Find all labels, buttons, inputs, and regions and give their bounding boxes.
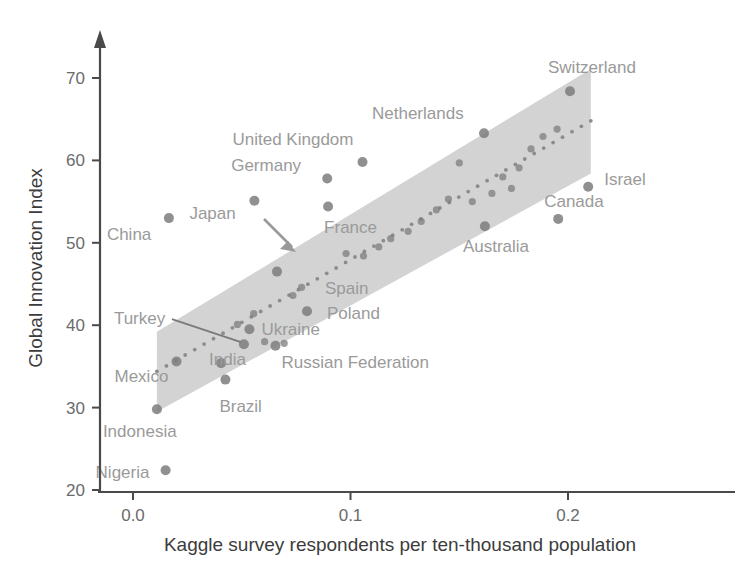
- data-point-switzerland: [565, 86, 575, 96]
- data-point-germany: [322, 174, 332, 184]
- fit-line-dot: [372, 244, 376, 248]
- x-tick-label-0.1: 0.1: [339, 506, 363, 525]
- fit-line-dot: [306, 282, 310, 286]
- country-label-germany: Germany: [231, 156, 301, 175]
- data-point-canada: [553, 214, 563, 224]
- fit-line-dot: [353, 255, 357, 259]
- country-label-russian-federation: Russian Federation: [282, 353, 429, 372]
- fit-line-dot: [315, 277, 319, 281]
- fit-line-dot: [231, 326, 235, 330]
- fit-line-dot: [495, 173, 499, 177]
- scatter-plot-figure: ChinaJapanGermanyUnited KingdomFranceSpa…: [0, 0, 751, 569]
- country-label-turkey: Turkey: [114, 309, 166, 328]
- data-point-netherlands: [479, 128, 489, 138]
- country-label-canada: Canada: [544, 192, 604, 211]
- y-tick-label-20: 20: [66, 481, 85, 500]
- fit-line-dot: [532, 152, 536, 156]
- data-point: [375, 243, 382, 250]
- data-point: [360, 252, 367, 259]
- data-point: [250, 310, 257, 317]
- country-label-poland: Poland: [327, 304, 380, 323]
- y-tick-label-50: 50: [66, 234, 85, 253]
- fit-line-dot: [429, 212, 433, 216]
- y-axis-title: Global Innovation Index: [25, 168, 46, 368]
- country-label-china: China: [107, 225, 152, 244]
- data-point-ukraine: [244, 324, 254, 334]
- fit-line-dot: [476, 184, 480, 188]
- data-point-russian-federation: [271, 341, 281, 351]
- fit-line-dot: [193, 348, 197, 352]
- x-tick-label-0.2: 0.2: [556, 506, 580, 525]
- fit-line-dot: [589, 119, 593, 123]
- x-axis-title: Kaggle survey respondents per ten-thousa…: [164, 534, 636, 555]
- data-point-brazil: [220, 375, 230, 385]
- fit-line-dot: [381, 239, 385, 243]
- country-label-indonesia: Indonesia: [103, 422, 177, 441]
- plot-canvas: ChinaJapanGermanyUnited KingdomFranceSpa…: [0, 0, 751, 569]
- x-tick-label-0.0: 0.0: [121, 506, 145, 525]
- country-label-australia: Australia: [463, 237, 530, 256]
- data-point-france: [323, 202, 333, 212]
- data-point-australia: [480, 221, 490, 231]
- fit-line-dot: [457, 195, 461, 199]
- fit-line-dot: [466, 190, 470, 194]
- data-point: [527, 145, 534, 152]
- data-point-indonesia: [152, 404, 162, 414]
- country-label-india: India: [209, 350, 246, 369]
- data-point: [387, 235, 394, 242]
- data-point: [488, 190, 495, 197]
- data-point: [539, 133, 546, 140]
- fit-line-dot: [259, 310, 263, 314]
- y-tick-label-60: 60: [66, 151, 85, 170]
- fit-line-dot: [212, 337, 216, 341]
- data-point: [289, 292, 296, 299]
- germany-callout-arrow-head: [280, 241, 296, 252]
- country-label-netherlands: Netherlands: [372, 104, 464, 123]
- country-label-japan: Japan: [189, 204, 235, 223]
- fit-line-dot: [278, 299, 282, 303]
- country-label-switzerland: Switzerland: [548, 58, 636, 77]
- data-point: [508, 185, 515, 192]
- country-label-united-kingdom: United Kingdom: [233, 130, 354, 149]
- country-label-mexico: Mexico: [115, 367, 169, 386]
- data-point: [433, 206, 440, 213]
- fit-line-dot: [183, 353, 187, 357]
- data-point-united-kingdom: [358, 157, 368, 167]
- y-tick-label-70: 70: [66, 69, 85, 88]
- data-point: [418, 218, 425, 225]
- data-point-turkey: [239, 339, 249, 349]
- data-point: [499, 173, 506, 180]
- data-point-israel: [583, 182, 593, 192]
- fit-line-dot: [334, 266, 338, 270]
- data-point: [281, 340, 288, 347]
- data-point: [298, 284, 305, 291]
- country-label-spain: Spain: [325, 279, 368, 298]
- data-point-china: [164, 213, 174, 223]
- data-point: [456, 159, 463, 166]
- fit-line-dot: [221, 331, 225, 335]
- fit-line-dot: [325, 271, 329, 275]
- fit-line-dot: [202, 342, 206, 346]
- y-axis-arrow-head: [94, 30, 106, 48]
- fit-line-dot: [410, 222, 414, 226]
- data-point-mexico: [172, 357, 182, 367]
- country-label-brazil: Brazil: [219, 397, 262, 416]
- country-label-nigeria: Nigeria: [96, 463, 150, 482]
- country-label-israel: Israel: [604, 170, 646, 189]
- data-point: [234, 321, 241, 328]
- country-label-ukraine: Ukraine: [261, 320, 320, 339]
- data-point: [554, 126, 561, 133]
- fit-line-dot: [561, 135, 565, 139]
- data-point: [469, 198, 476, 205]
- fit-line-dot: [400, 228, 404, 232]
- data-point-poland: [302, 306, 312, 316]
- fit-line-dot: [344, 261, 348, 265]
- y-tick-label-40: 40: [66, 316, 85, 335]
- country-label-france: France: [324, 218, 377, 237]
- fit-line-dot: [570, 130, 574, 134]
- fit-line-dot: [580, 124, 584, 128]
- data-point: [516, 164, 523, 171]
- fit-line-dot: [485, 179, 489, 183]
- fit-line-dot: [504, 168, 508, 172]
- y-tick-label-30: 30: [66, 399, 85, 418]
